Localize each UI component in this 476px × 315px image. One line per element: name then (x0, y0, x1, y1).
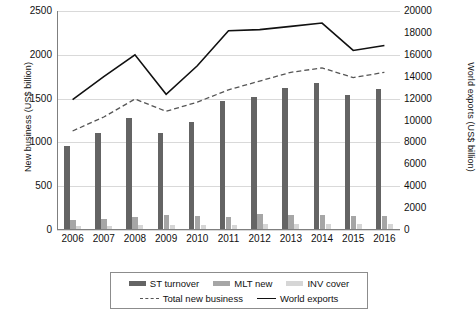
y-axis-right-tick-label: 14000 (404, 72, 444, 82)
x-axis-tick-label: 2009 (151, 233, 182, 244)
x-axis-tick-label: 2010 (182, 233, 213, 244)
chart-legend: ST turnoverMLT newINV cover Total new bu… (110, 272, 368, 309)
y-axis-left-tick-label: 0 (18, 225, 52, 235)
legend-item-inv-cover[interactable]: INV cover (286, 278, 349, 289)
x-axis-tick-label: 2015 (338, 233, 369, 244)
x-axis-tick-label: 2014 (306, 233, 337, 244)
y-axis-right-tick-label: 2000 (404, 203, 444, 213)
y-axis-right-tick-label: 20000 (404, 6, 444, 16)
y-axis-left-tick-label: 1000 (18, 137, 52, 147)
x-axis-tick-label: 2011 (213, 233, 244, 244)
legend-item-total-new-business[interactable]: Total new business (140, 293, 243, 304)
legend-swatch-solid-line-icon (257, 298, 276, 299)
y-axis-left-tick-label: 1500 (18, 94, 52, 104)
legend-label: World exports (280, 293, 338, 304)
legend-label: Total new business (163, 293, 243, 304)
line-total-new-business (73, 68, 385, 131)
legend-label: ST turnover (150, 278, 199, 289)
x-axis-tick-label: 2016 (369, 233, 400, 244)
y-axis-left-tick-label: 2500 (18, 6, 52, 16)
y-axis-right-tick-label: 18000 (404, 28, 444, 38)
y-axis-left-tick-label: 500 (18, 181, 52, 191)
x-axis-labels: 2006200720082009201020112012201320142015… (57, 233, 400, 247)
y-axis-right-tick-label: 4000 (404, 181, 444, 191)
legend-swatch-dashed-line-icon (140, 298, 159, 299)
x-axis-baseline (57, 229, 400, 230)
y-axis-right-ticks: 0200040006000800010000120001400016000180… (404, 0, 444, 235)
y-axis-right-tick-label: 8000 (404, 137, 444, 147)
x-axis-tick-label: 2013 (275, 233, 306, 244)
x-axis-tick-label: 2008 (119, 233, 150, 244)
y-axis-right-tick-label: 10000 (404, 116, 444, 126)
x-axis-tick-label: 2006 (57, 233, 88, 244)
legend-item-mlt-new[interactable]: MLT new (213, 278, 272, 289)
y-axis-right-title: World exports (US$ billion) (466, 37, 476, 197)
x-axis-tick-label: 2007 (88, 233, 119, 244)
legend-swatch-bar-icon (286, 281, 303, 286)
line-series-group (57, 11, 400, 230)
y-axis-left-tick-label: 2000 (18, 50, 52, 60)
legend-label: MLT new (234, 278, 272, 289)
legend-row-bars: ST turnoverMLT newINV cover (111, 276, 367, 291)
y-axis-right-tick-label: 6000 (404, 159, 444, 169)
gridline (57, 230, 400, 231)
legend-label: INV cover (307, 278, 349, 289)
plot-area (57, 11, 400, 230)
line-world-exports (73, 23, 385, 100)
y-axis-left-ticks: 05001000150020002500 (18, 0, 52, 235)
y-axis-right-tick-label: 16000 (404, 50, 444, 60)
legend-row-lines: Total new businessWorld exports (111, 291, 367, 306)
x-axis-tick-label: 2012 (244, 233, 275, 244)
legend-swatch-bar-icon (213, 281, 230, 286)
legend-item-st-turnover[interactable]: ST turnover (129, 278, 199, 289)
y-axis-right-tick-label: 12000 (404, 94, 444, 104)
legend-swatch-bar-icon (129, 281, 146, 286)
legend-item-world-exports[interactable]: World exports (257, 293, 338, 304)
y-axis-right-tick-label: 0 (404, 225, 444, 235)
